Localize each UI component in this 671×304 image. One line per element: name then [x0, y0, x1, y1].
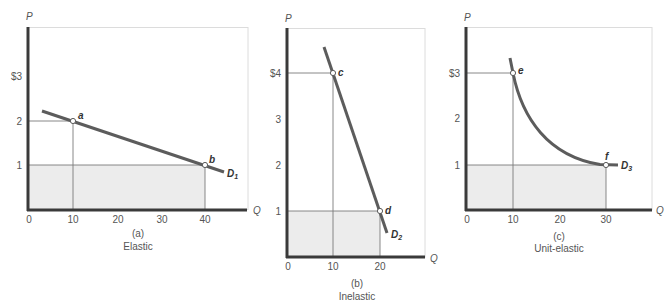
panel-b-ytick-2: 2	[275, 160, 281, 171]
panel-a-title: Elastic	[123, 241, 152, 252]
panel-c-q-label: Q	[656, 205, 664, 216]
panel-c-xtick-20: 20	[554, 214, 566, 225]
panel-a-xtick-20: 20	[112, 214, 124, 225]
panel-a-xtick-0: 0	[26, 214, 32, 225]
panel-a-d-label: D1	[227, 168, 238, 180]
panel-b-ytick-1: 1	[275, 206, 281, 217]
panel-a-q-label: Q	[253, 205, 261, 216]
panel-b-ytick-4: $4	[270, 68, 282, 79]
panel-a-caption: (a)	[132, 228, 144, 239]
panel-c-xtick-10: 10	[507, 214, 519, 225]
panel-a-point-a	[70, 118, 75, 123]
panel-c-point-e	[510, 70, 515, 75]
panel-b-xtick-10: 10	[327, 261, 339, 272]
panel-b-ytick-3: 3	[275, 114, 281, 125]
panel-a-ytick-3: $3	[11, 71, 23, 82]
panel-b-caption: (b)	[351, 278, 363, 289]
panel-c-xtick-0: 0	[464, 214, 470, 225]
panel-a-point-b	[202, 162, 207, 167]
panel-b-point-c	[330, 70, 335, 75]
panel-b-xtick-20: 20	[374, 261, 386, 272]
panel-a-point-b-label: b	[209, 154, 215, 165]
panel-c-ytick-2: 2	[454, 113, 460, 124]
panel-c-xtick-30: 30	[600, 214, 612, 225]
panel-c-demand-curve-d3	[510, 58, 618, 165]
panel-b-revenue-area	[288, 211, 380, 257]
panel-b-d-label: D2	[391, 229, 402, 241]
panel-c-p-label: P	[464, 12, 471, 23]
panel-b-q-label: Q	[430, 253, 438, 264]
panel-c-d-label: D3	[621, 160, 632, 172]
panel-b-inelastic: P Q c d D2 $4 3 2 1 0 10 20 (b) Inelasti…	[270, 13, 438, 302]
panel-a-p-label: P	[26, 11, 33, 22]
panel-b-p-label: P	[285, 13, 292, 24]
panel-c-ytick-1: 1	[454, 160, 460, 171]
elasticity-charts: P Q a b D1 $3 2 1 0 10 20 30 40 (a) Elas…	[0, 0, 671, 304]
panel-c-ytick-3: $3	[449, 68, 461, 79]
panel-b-point-c-label: c	[338, 67, 344, 78]
panel-a-xtick-40: 40	[199, 214, 211, 225]
panel-c-unit-elastic: P Q e f D3 $3 2 1 0 10 20 30 (c) Unit-el…	[449, 12, 664, 254]
panel-a-ytick-2: 2	[16, 116, 22, 127]
panel-a-ytick-1: 1	[16, 160, 22, 171]
panel-a-point-a-label: a	[78, 110, 84, 121]
panel-c-title: Unit-elastic	[534, 243, 583, 254]
panel-b-title: Inelastic	[339, 291, 376, 302]
panel-a-revenue-area	[29, 165, 205, 210]
panel-b-xtick-0: 0	[285, 261, 291, 272]
panel-a-xtick-30: 30	[156, 214, 168, 225]
panel-c-point-f-label: f	[605, 151, 610, 162]
panel-a-demand-curve-d1	[42, 111, 224, 172]
panel-a-xtick-10: 10	[67, 214, 79, 225]
panel-c-revenue-area	[467, 165, 606, 210]
panel-c-caption: (c)	[553, 231, 565, 242]
panel-b-point-d	[377, 208, 382, 213]
panel-a-elastic: P Q a b D1 $3 2 1 0 10 20 30 40 (a) Elas…	[11, 11, 261, 252]
panel-c-point-e-label: e	[518, 65, 524, 76]
panel-c-point-f	[603, 162, 608, 167]
panel-b-point-d-label: d	[385, 205, 392, 216]
